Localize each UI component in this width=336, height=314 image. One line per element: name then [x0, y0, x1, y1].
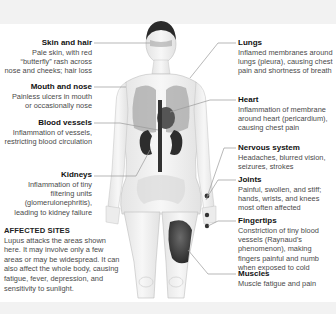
head: [146, 21, 176, 63]
label-lungs: Lungs Inflamed membranes around lungs (p…: [238, 38, 334, 76]
fingertip-dot: [205, 213, 209, 217]
label-description: Muscle fatigue and pain: [238, 279, 334, 288]
label-description: Inflamed membranes around lungs (pleura)…: [238, 48, 334, 76]
label-kidneys: Kidneys Inflammation of tiny filtering u…: [4, 170, 92, 217]
label-blood-vessels: Blood vessels Inflammation of vessels, r…: [4, 118, 92, 146]
label-title: Lungs: [238, 38, 334, 48]
label-title: Heart: [238, 95, 334, 105]
label-description: Painful, swollen, and stiff; hands, wris…: [238, 185, 334, 213]
label-title: Kidneys: [4, 170, 92, 180]
label-mouth-and-nose: Mouth and nose Painless ulcers in mouth …: [4, 82, 92, 110]
label-title: Skin and hair: [4, 38, 92, 48]
label-description: Pale skin, with red “butterfly” rash acr…: [4, 48, 92, 76]
label-title: Joints: [238, 175, 334, 185]
label-title: Fingertips: [238, 216, 334, 226]
label-skin-and-hair: Skin and hair Pale skin, with red “butte…: [4, 38, 92, 76]
label-description: Inflammation of tiny filtering units (gl…: [4, 180, 92, 217]
label-description: Painless ulcers in mouth or occasionally…: [4, 92, 92, 110]
affected-sites-text: Lupus attacks the areas shown here. It m…: [4, 236, 119, 293]
label-joints: Joints Painful, swollen, and stiff; hand…: [238, 175, 334, 213]
label-description: Constriction of tiny blood vessels (Rayn…: [238, 226, 334, 272]
label-description: Inflammation of vessels, restricting blo…: [4, 128, 92, 146]
label-fingertips: Fingertips Constriction of tiny blood ve…: [238, 216, 334, 272]
label-title: Mouth and nose: [4, 82, 92, 92]
label-description: Inflammation of membrane around heart (p…: [238, 105, 334, 133]
label-title: Blood vessels: [4, 118, 92, 128]
aorta: [158, 100, 162, 172]
label-heart: Heart Inflammation of membrane around he…: [238, 95, 334, 133]
label-description: Headaches, blurred vision, seizures, str…: [238, 153, 334, 171]
label-title: Muscles: [238, 269, 334, 279]
thigh-muscle: [168, 220, 192, 263]
affected-sites-note: AFFECTED SITES Lupus attacks the areas s…: [4, 226, 122, 293]
label-muscles: Muscles Muscle fatigue and pain: [238, 269, 334, 288]
left-leg: [124, 212, 160, 298]
label-nervous-system: Nervous system Headaches, blurred vision…: [238, 143, 334, 171]
affected-sites-heading: AFFECTED SITES: [4, 226, 122, 236]
label-title: Nervous system: [238, 143, 334, 153]
